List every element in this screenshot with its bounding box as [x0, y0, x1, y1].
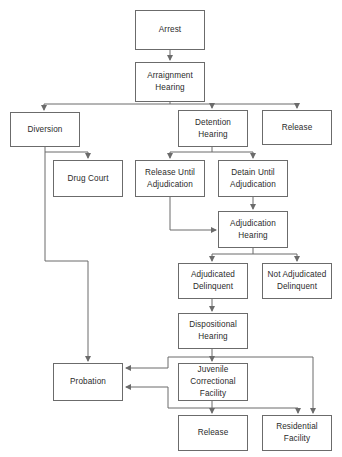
flow-node-diversion: Diversion [10, 112, 80, 147]
flow-node-label: JuvenileCorrectionalFacility [181, 364, 245, 400]
flow-arrowhead [250, 153, 256, 159]
flow-node-release_bottom: Release [178, 415, 248, 451]
flow-arrowhead [85, 356, 91, 362]
flow-node-probation: Probation [53, 363, 123, 401]
flowchart-canvas: ArrestArraignmentHearingDiversionDetenti… [0, 0, 342, 457]
flow-node-label: Detain UntilAdjudication [221, 167, 285, 191]
flow-edge [170, 197, 216, 230]
flow-node-label: AdjudicationHearing [221, 218, 285, 242]
flow-node-label: Release [181, 427, 245, 439]
flow-node-adjudicated: AdjudicatedDelinquent [178, 263, 248, 299]
flow-arrowhead [294, 103, 300, 109]
flow-node-label: Probation [56, 376, 120, 388]
flow-arrowhead [250, 204, 256, 210]
flow-arrowhead [209, 408, 215, 414]
flow-arrowhead [209, 306, 215, 312]
flow-node-arraignment: ArraignmentHearing [135, 62, 205, 102]
flow-node-label: DetentionHearing [181, 117, 245, 141]
flow-node-label: Not AdjudicatedDelinquent [265, 269, 329, 293]
flow-arrowhead [125, 365, 131, 371]
flow-node-residential: ResidentialFacility [262, 415, 332, 451]
flow-node-label: ResidentialFacility [265, 421, 329, 445]
flow-node-label: Release UntilAdjudication [138, 167, 202, 191]
flow-arrowhead [125, 384, 131, 390]
flow-arrowhead [310, 408, 316, 414]
flow-node-label: Diversion [13, 124, 77, 136]
flow-arrowhead [211, 227, 217, 233]
flow-node-release_top: Release [262, 110, 332, 145]
flow-node-label: DispositionalHearing [181, 319, 245, 343]
flow-node-detention: DetentionHearing [178, 110, 248, 147]
flow-node-dispositional: DispositionalHearing [178, 313, 248, 349]
flow-node-not_adjudicated: Not AdjudicatedDelinquent [262, 263, 332, 299]
flow-node-detain_until: Detain UntilAdjudication [218, 160, 288, 197]
flow-node-juvenile_corr: JuvenileCorrectionalFacility [178, 363, 248, 401]
flow-arrowhead [209, 256, 215, 262]
flow-arrowhead [209, 356, 215, 362]
flow-arrowhead [209, 103, 215, 109]
flow-node-release_until: Release UntilAdjudication [135, 160, 205, 197]
flow-arrowhead [85, 153, 91, 159]
flow-node-label: ArraignmentHearing [138, 70, 202, 94]
flow-node-label: AdjudicatedDelinquent [181, 269, 245, 293]
flow-node-adjudication: AdjudicationHearing [218, 211, 288, 248]
flow-node-drug_court: Drug Court [53, 160, 123, 197]
flow-node-label: Release [265, 122, 329, 134]
flow-arrowhead [294, 256, 300, 262]
flow-node-label: Drug Court [56, 173, 120, 185]
flow-node-arrest: Arrest [135, 10, 205, 50]
flow-edge [126, 357, 168, 368]
flow-arrowhead [295, 408, 301, 414]
flow-node-label: Arrest [138, 24, 202, 36]
flow-edge [45, 147, 88, 158]
flow-arrowhead [167, 55, 173, 61]
flow-arrowhead [167, 153, 173, 159]
flow-arrowhead [41, 105, 47, 111]
